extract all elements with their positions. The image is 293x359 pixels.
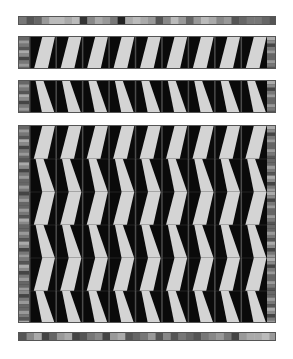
band-2 (18, 80, 276, 113)
band-1 (18, 36, 276, 69)
top-color-bar (18, 16, 276, 25)
bottom-color-bar (18, 332, 276, 341)
band-3 (18, 125, 276, 323)
